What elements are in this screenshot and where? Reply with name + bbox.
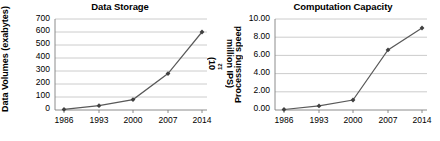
chart-panel-data-storage: Data Storage Data Volumes (exabytes) 0 1…: [0, 0, 220, 141]
x-tick-label: 1986: [267, 116, 301, 125]
y-axis-label-line-2-prefix: (10: [207, 12, 216, 116]
x-tick-label: 2007: [151, 116, 185, 125]
x-tick-label: 2007: [371, 116, 405, 125]
x-tick-label: 1993: [82, 116, 116, 125]
x-tick-label: 2000: [336, 116, 370, 125]
x-tick-label: 1986: [47, 116, 81, 125]
x-tick-label: 2014: [185, 116, 219, 125]
figure-two-line-charts: Data Storage Data Volumes (exabytes) 0 1…: [0, 0, 440, 141]
x-tick-label: 2000: [116, 116, 150, 125]
x-tick-label: 1993: [302, 116, 336, 125]
x-tick-label: 2014: [405, 116, 439, 125]
chart-panel-computation-capacity: Computation Capacity Processing speed (1…: [220, 0, 440, 141]
